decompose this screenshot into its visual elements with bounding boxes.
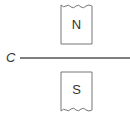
wire-label: C xyxy=(6,50,15,65)
south-pole-label: S xyxy=(61,82,92,97)
north-pole-label: N xyxy=(61,17,92,32)
